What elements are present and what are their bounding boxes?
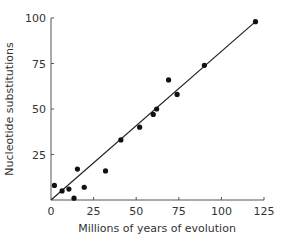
data-point	[59, 188, 64, 193]
data-point	[71, 196, 76, 201]
data-point	[66, 186, 71, 191]
x-tick-label: 25	[87, 205, 101, 218]
x-tick-label: 75	[172, 205, 186, 218]
data-point	[151, 112, 156, 117]
data-point	[137, 125, 142, 130]
x-tick-label: 125	[254, 205, 275, 218]
scatter-chart: 0255075100125255075100 Millions of years…	[0, 0, 285, 241]
y-tick-label: 100	[25, 12, 46, 25]
y-axis-title: Nucleotide substitutions	[3, 42, 16, 176]
data-point	[202, 63, 207, 68]
x-tick-label: 0	[48, 205, 55, 218]
data-point	[154, 106, 159, 111]
x-axis-title: Millions of years of evolution	[78, 222, 236, 235]
regression-line	[51, 22, 255, 200]
data-point	[82, 185, 87, 190]
x-tick-label: 100	[211, 205, 232, 218]
data-point	[75, 166, 80, 171]
trend-line	[51, 22, 255, 200]
tick-labels: 0255075100125255075100	[25, 12, 275, 218]
data-point	[118, 137, 123, 142]
data-point	[253, 19, 258, 24]
x-tick-label: 50	[129, 205, 143, 218]
data-point	[166, 77, 171, 82]
data-point	[174, 92, 179, 97]
data-point	[52, 183, 57, 188]
data-point	[103, 168, 108, 173]
y-tick-label: 75	[32, 58, 46, 71]
y-tick-label: 25	[32, 149, 46, 162]
y-tick-label: 50	[32, 103, 46, 116]
